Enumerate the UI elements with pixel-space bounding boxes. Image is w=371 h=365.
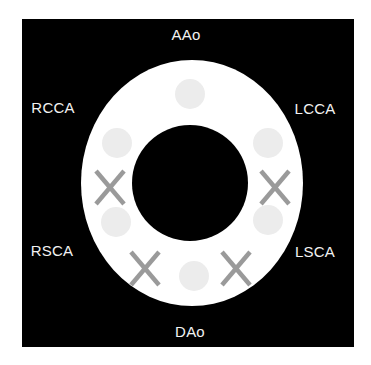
aortic-ring-diagram bbox=[0, 0, 371, 365]
inner-lumen bbox=[132, 125, 248, 241]
dot-marker-top bbox=[175, 79, 205, 109]
label-lcca: LCCA bbox=[295, 100, 336, 117]
label-rsca: RSCA bbox=[31, 242, 73, 259]
label-aao: AAo bbox=[172, 26, 201, 43]
label-lsca: LSCA bbox=[295, 243, 335, 260]
dot-marker-lower-left bbox=[101, 207, 131, 237]
label-dao: DAo bbox=[175, 323, 205, 340]
dot-marker-lower-right bbox=[253, 205, 283, 235]
dot-marker-bottom bbox=[179, 261, 209, 291]
dot-marker-upper-left bbox=[102, 128, 132, 158]
dot-marker-upper-right bbox=[253, 128, 283, 158]
label-rcca: RCCA bbox=[31, 99, 74, 116]
